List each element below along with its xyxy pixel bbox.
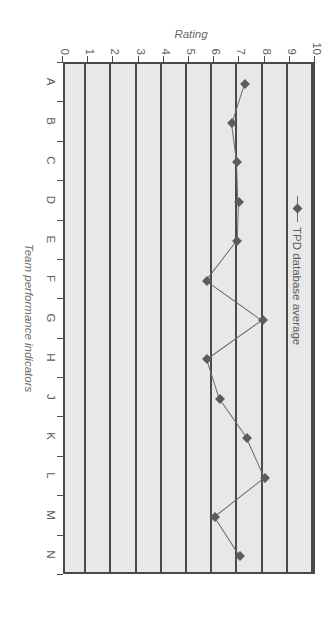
x-tick-label: C	[45, 143, 57, 177]
x-tick-label: H	[45, 340, 57, 374]
x-tick-label: L	[45, 459, 57, 493]
data-point-marker	[234, 197, 244, 207]
x-axis-title: Team performance indicators	[23, 62, 35, 574]
chart-figure: 012345678910 ABCDEFGHJKLMN Team performa…	[0, 0, 329, 625]
legend-marker-icon	[292, 196, 302, 222]
y-tick-label: 1	[84, 21, 96, 55]
x-tick-mark	[57, 574, 63, 575]
line-segment	[247, 438, 266, 478]
y-tick-mark	[138, 56, 139, 62]
chart-rotation-wrapper: 012345678910 ABCDEFGHJKLMN Team performa…	[0, 0, 329, 625]
y-axis-title: Rating	[151, 28, 231, 40]
y-tick-label: 2	[109, 21, 121, 55]
data-point-marker	[227, 118, 237, 128]
x-tick-label: J	[45, 380, 57, 414]
line-segment	[206, 241, 237, 281]
x-tick-mark	[57, 62, 63, 63]
y-tick-mark	[238, 56, 239, 62]
x-tick-label: E	[45, 222, 57, 256]
line-segment	[219, 399, 248, 439]
y-tick-label: 10	[311, 21, 323, 55]
legend-label: TPD database average	[291, 227, 303, 345]
data-point-marker	[258, 315, 268, 325]
y-tick-mark	[188, 56, 189, 62]
line-segment	[214, 517, 240, 557]
line-segment	[207, 319, 263, 359]
data-point-marker	[215, 394, 225, 404]
x-tick-label: B	[45, 104, 57, 138]
y-tick-mark	[213, 56, 214, 62]
x-tick-label: D	[45, 183, 57, 217]
plot-area	[63, 62, 315, 574]
x-tick-label: G	[45, 301, 57, 335]
x-tick-mark	[57, 220, 63, 221]
x-tick-label: K	[45, 419, 57, 453]
x-tick-mark	[57, 259, 63, 260]
x-tick-label: M	[45, 498, 57, 532]
x-tick-mark	[57, 141, 63, 142]
y-tick-label: 7	[235, 21, 247, 55]
line-segment	[207, 281, 263, 321]
x-tick-label: A	[45, 65, 57, 99]
y-tick-label: 0	[59, 21, 71, 55]
x-tick-mark	[57, 377, 63, 378]
x-tick-mark	[57, 456, 63, 457]
x-tick-mark	[57, 180, 63, 181]
x-tick-mark	[57, 535, 63, 536]
line-segment	[214, 477, 265, 517]
data-point-marker	[243, 433, 253, 443]
data-point-marker	[235, 551, 245, 561]
series-layer	[65, 64, 313, 572]
x-tick-mark	[57, 101, 63, 102]
line-segment	[231, 83, 245, 123]
chart-legend: TPD database average	[291, 196, 303, 345]
x-tick-mark	[57, 338, 63, 339]
x-tick-label: N	[45, 537, 57, 571]
y-tick-mark	[314, 56, 315, 62]
y-tick-label: 3	[135, 21, 147, 55]
y-tick-label: 8	[261, 21, 273, 55]
x-tick-mark	[57, 416, 63, 417]
y-tick-mark	[264, 56, 265, 62]
x-tick-label: F	[45, 262, 57, 296]
data-point-marker	[240, 79, 250, 89]
y-tick-mark	[87, 56, 88, 62]
x-tick-mark	[57, 298, 63, 299]
y-tick-mark	[289, 56, 290, 62]
x-tick-mark	[57, 495, 63, 496]
data-point-marker	[232, 158, 242, 168]
y-tick-mark	[163, 56, 164, 62]
y-tick-label: 9	[286, 21, 298, 55]
line-segment	[206, 359, 220, 399]
y-tick-mark	[112, 56, 113, 62]
